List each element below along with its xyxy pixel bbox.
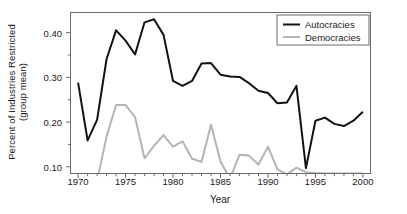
plot-area: AutocraciesDemocracies (0, 0, 407, 214)
chart-figure: Percent of Industries Restricted (group … (0, 0, 407, 214)
series-line-democracies (97, 105, 363, 181)
legend-label-autocracies: Autocracies (305, 19, 355, 30)
legend-label-democracies: Democracies (305, 32, 361, 43)
